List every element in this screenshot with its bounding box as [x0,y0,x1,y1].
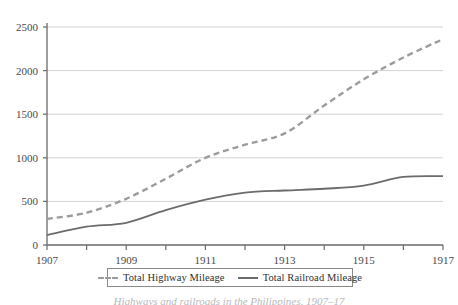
line-chart-plot: 05001000150020002500 1907190919111913191… [0,0,458,305]
legend-label-highway: Total Highway Mileage [123,272,225,283]
x-tick-label: 1909 [115,254,138,266]
figure-caption: Highways and railroads in the Philippine… [0,295,458,305]
chart-legend: Total Highway Mileage Total Railroad Mil… [107,268,353,287]
x-axis-tick-labels: 190719091911191319151917 [36,254,455,266]
x-tick-label: 1915 [353,254,376,266]
y-tick-label: 500 [22,195,39,207]
legend-item-highway: Total Highway Mileage [98,272,225,283]
data-series [47,39,443,235]
axis-ticks [43,27,443,250]
legend-item-railroad: Total Railroad Mileage [238,272,362,283]
y-tick-label: 2500 [16,21,39,33]
legend-label-railroad: Total Railroad Mileage [263,272,362,283]
x-tick-label: 1913 [274,254,297,266]
legend-swatch-railroad [238,277,258,279]
gridlines [47,27,443,201]
y-axis-tick-labels: 05001000150020002500 [16,21,39,251]
x-tick-label: 1911 [195,254,217,266]
y-tick-label: 1000 [16,152,39,164]
y-tick-label: 0 [33,239,39,251]
chart-figure: 05001000150020002500 1907190919111913191… [0,0,458,305]
axes [47,23,443,245]
y-tick-label: 1500 [16,108,39,120]
legend-swatch-highway [98,277,118,279]
x-tick-label: 1907 [36,254,59,266]
x-tick-label: 1917 [432,254,455,266]
y-tick-label: 2000 [16,65,39,77]
